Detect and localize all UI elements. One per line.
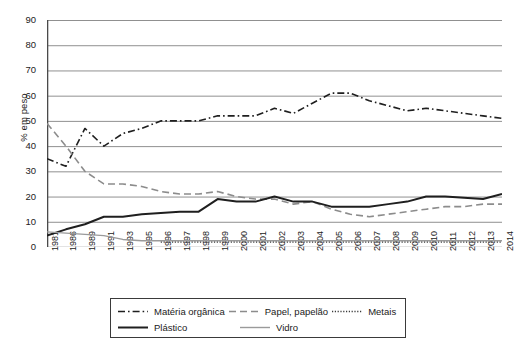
legend-label-materia-organica: Matéria orgânica (154, 306, 225, 317)
legend-swatch-materia-organica-icon (118, 307, 148, 316)
x-tick-label: 2014 (506, 231, 515, 251)
legend-label-metais: Metais (368, 306, 396, 317)
legend-item-papel-papelao[interactable]: Papel, papelão (229, 306, 328, 317)
series-line-1 (47, 123, 502, 216)
legend-item-plastico[interactable]: Plástico (118, 322, 236, 333)
series-line-4 (47, 232, 502, 241)
y-tick-label: 70 (14, 65, 36, 75)
y-tick-label: 0 (14, 242, 36, 252)
y-tick-label: 50 (14, 116, 36, 126)
legend-label-plastico: Plástico (154, 322, 187, 333)
legend-item-materia-organica[interactable]: Matéria orgânica (118, 306, 225, 317)
series-line-3 (47, 194, 502, 236)
y-tick-label: 30 (14, 166, 36, 176)
y-tick-label: 60 (14, 91, 36, 101)
y-tick-label: 90 (14, 15, 36, 25)
chart-plot-svg (47, 20, 502, 247)
chart-legend: Matéria orgânica Papel, papelão Metais P… (110, 298, 406, 338)
legend-label-vidro: Vidro (276, 322, 298, 333)
legend-label-papel-papelao: Papel, papelão (265, 306, 328, 317)
legend-item-vidro[interactable]: Vidro (240, 322, 350, 333)
legend-swatch-metais-icon (332, 307, 362, 316)
legend-swatch-papel-papelao-icon (229, 307, 259, 316)
y-tick-label: 20 (14, 192, 36, 202)
y-tick-label: 10 (14, 217, 36, 227)
legend-row-2: Plástico Vidro (118, 319, 398, 335)
legend-item-metais[interactable]: Metais (332, 306, 396, 317)
legend-swatch-vidro-icon (240, 323, 270, 332)
y-tick-label: 40 (14, 141, 36, 151)
legend-row-1: Matéria orgânica Papel, papelão Metais (118, 303, 398, 319)
series-line-0 (47, 93, 502, 166)
legend-swatch-plastico-icon (118, 323, 148, 332)
y-tick-label: 80 (14, 40, 36, 50)
plot-area (47, 20, 502, 247)
